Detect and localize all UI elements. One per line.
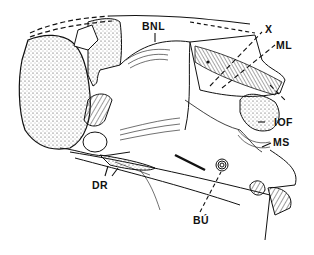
label-ml: ML [276, 40, 292, 51]
label-bu: BÚ [193, 215, 209, 226]
label-ms: MS [273, 137, 290, 148]
stippled-bone-left [19, 19, 121, 149]
label-bnl: BNL [142, 21, 165, 32]
label-iof: IOF [274, 117, 293, 128]
anatomical-drawing [0, 0, 314, 255]
maxillary-region [185, 35, 285, 152]
label-x: X [265, 24, 273, 35]
label-dr: DR [92, 180, 108, 191]
dental-ridge [70, 150, 296, 240]
central-bone [120, 41, 190, 140]
